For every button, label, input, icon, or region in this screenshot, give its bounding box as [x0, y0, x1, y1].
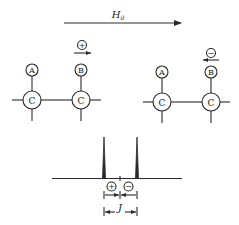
- coupling-constant-dimension: J: [104, 202, 137, 216]
- atom-b: B: [75, 64, 87, 76]
- svg-text:C: C: [159, 98, 166, 108]
- coupling-label: J: [116, 202, 123, 213]
- svg-text:−: −: [208, 49, 215, 58]
- svg-text:C: C: [208, 98, 215, 108]
- atom-a: A: [156, 66, 168, 78]
- minus-spin-indicator: −: [203, 49, 219, 61]
- half-splitting-dimension: [104, 191, 137, 199]
- svg-text:+: +: [108, 182, 115, 191]
- atom-c: C: [202, 93, 220, 111]
- doublet-spectrum: + − J: [52, 137, 182, 216]
- svg-text:C: C: [29, 96, 36, 106]
- svg-text:B: B: [208, 68, 214, 77]
- svg-text:−: −: [125, 182, 132, 191]
- svg-text:A: A: [28, 66, 35, 75]
- atom-b: B: [205, 66, 217, 78]
- atom-c: C: [23, 91, 41, 109]
- right-spin-group: − A B C C: [143, 49, 230, 124]
- nmr-coupling-diagram: H0 + A B C C: [0, 0, 239, 225]
- atom-a: A: [26, 64, 38, 76]
- peak-sign-minus: −: [124, 182, 133, 191]
- peak-left: [103, 137, 106, 179]
- svg-text:C: C: [78, 96, 85, 106]
- svg-text:B: B: [78, 66, 84, 75]
- svg-text:+: +: [79, 41, 86, 50]
- magnetic-field-arrow: H0: [64, 9, 181, 23]
- left-spin-group: + A B C C: [12, 41, 101, 122]
- svg-text:A: A: [158, 68, 165, 77]
- atom-c: C: [153, 93, 171, 111]
- peak-sign-plus: +: [107, 182, 116, 191]
- atom-c: C: [72, 91, 90, 109]
- field-label: H0: [111, 9, 125, 21]
- peak-right: [136, 137, 139, 179]
- plus-spin-indicator: +: [74, 41, 91, 54]
